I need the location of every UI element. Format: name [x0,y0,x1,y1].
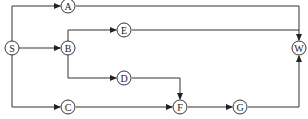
node-f-label: F [177,102,183,113]
node-w-label: W [294,43,304,54]
edge-g-w [248,56,299,107]
edge-d-f [132,78,180,99]
node-g-label: G [236,102,243,113]
network-diagram: S A B E D C F G W [0,0,308,119]
edge-s-a [12,6,60,41]
edge-b-e [68,30,116,41]
node-f: F [173,100,187,114]
node-s: S [5,41,19,55]
node-a: A [61,0,75,13]
edge-b-d [68,55,116,78]
node-c: C [61,100,75,114]
node-c-label: C [65,102,72,113]
node-w: W [292,41,306,55]
node-a-label: A [64,1,72,12]
node-g: G [233,100,247,114]
edge-a-w [76,6,299,40]
node-b: B [61,41,75,55]
node-d-label: D [120,73,127,84]
node-e: E [117,23,131,37]
edge-s-c [12,55,60,107]
node-e-label: E [121,25,127,36]
node-b-label: B [65,43,72,54]
node-s-label: S [9,43,15,54]
node-d: D [117,71,131,85]
